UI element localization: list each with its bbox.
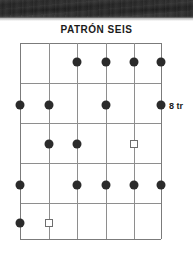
fret-line-0: [20, 43, 161, 44]
note-marker-dot-s3-f3: [73, 140, 82, 149]
note-marker-dot-s4-f4: [101, 181, 110, 190]
note-marker-dot-s3-f1: [73, 58, 82, 67]
fret-line-1: [20, 83, 161, 84]
note-marker-dot-s6-f4: [157, 181, 166, 190]
note-marker-square-s5-f3: [130, 140, 138, 148]
note-marker-dot-s2-f3: [44, 140, 53, 149]
note-marker-dot-s5-f4: [130, 181, 139, 190]
scanned-page-edge-band: [0, 0, 193, 18]
note-marker-dot-s1-f4: [16, 181, 25, 190]
fret-line-5: [20, 239, 161, 240]
note-marker-dot-s6-f1: [157, 58, 166, 67]
note-marker-dot-s4-f1: [101, 58, 110, 67]
scanned-edge-fade: [0, 17, 193, 21]
fret-line-3: [20, 163, 161, 164]
fretboard-diagram: [20, 43, 162, 240]
fret-position-label: 8 tr: [169, 101, 183, 111]
note-marker-dot-s6-f2: [157, 101, 166, 110]
note-marker-dot-s2-f2: [44, 101, 53, 110]
note-marker-dot-s3-f4: [73, 181, 82, 190]
note-marker-dot-s1-f2: [16, 101, 25, 110]
note-marker-dot-s1-f5: [16, 219, 25, 228]
string-line-1: [20, 43, 21, 239]
string-line-6: [161, 43, 162, 239]
note-marker-dot-s5-f1: [130, 58, 139, 67]
note-marker-dot-s4-f2: [101, 101, 110, 110]
fret-line-2: [20, 123, 161, 124]
string-line-4: [106, 43, 107, 239]
fret-line-4: [20, 203, 161, 204]
note-marker-square-s2-f5: [45, 219, 53, 227]
page-title: PATRÓN SEIS: [0, 24, 193, 35]
